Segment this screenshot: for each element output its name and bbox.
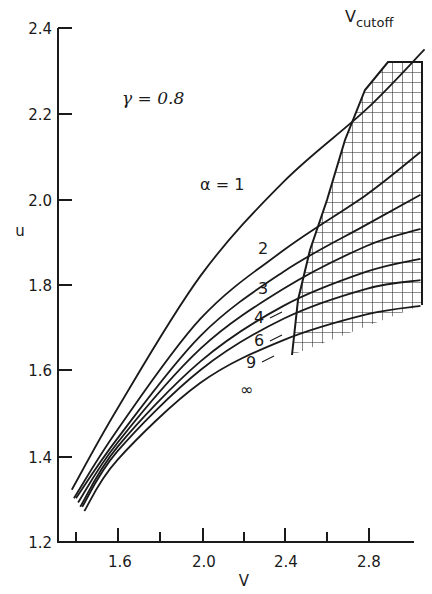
x-axis-label: V: [239, 572, 250, 590]
chart: 2.4 2.2 2.0 1.8 1.6 1.4 1.2 1.6 2.0 2.4 …: [0, 0, 432, 594]
gamma-annotation: γ = 0.8: [122, 88, 184, 108]
svg-text:1.8: 1.8: [28, 277, 52, 295]
svg-text:2.0: 2.0: [192, 553, 216, 571]
curve-label: ∞: [240, 380, 253, 399]
curve-label: α = 1: [200, 175, 244, 194]
svg-text:1.2: 1.2: [28, 534, 52, 552]
curve-alpha-7: [84, 306, 420, 511]
svg-text:1.6: 1.6: [28, 362, 52, 380]
curve-label: 9: [246, 353, 256, 372]
y-tick-labels: 2.4 2.2 2.0 1.8 1.6 1.4 1.2: [28, 20, 52, 552]
svg-text:2.4: 2.4: [274, 553, 298, 571]
cutoff-label: Vcutoff: [345, 7, 394, 30]
curve-labels: α = 123469∞: [200, 175, 282, 399]
svg-text:2.0: 2.0: [28, 192, 52, 210]
x-tick-labels: 1.6 2.0 2.4 2.8: [108, 553, 381, 571]
curve-label: 4: [254, 308, 264, 327]
cutoff-region: [280, 55, 430, 365]
svg-text:2.2: 2.2: [28, 106, 52, 124]
svg-text:2.8: 2.8: [357, 553, 381, 571]
curve-label: 2: [258, 239, 268, 258]
svg-text:1.6: 1.6: [108, 553, 132, 571]
label-leader: [262, 356, 274, 362]
y-axis-label: u: [15, 222, 25, 240]
svg-text:2.4: 2.4: [28, 20, 52, 38]
label-leader: [270, 335, 282, 341]
svg-text:1.4: 1.4: [28, 449, 52, 467]
svg-text:Vcutoff: Vcutoff: [345, 7, 394, 30]
curve-label: 3: [258, 279, 268, 298]
curve-label: 6: [254, 331, 264, 350]
